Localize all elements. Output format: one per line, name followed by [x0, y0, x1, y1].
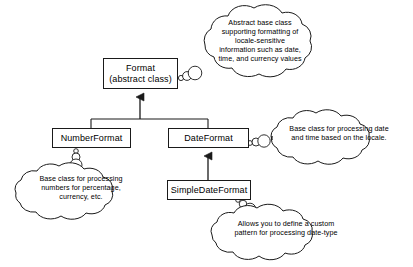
- class-box-numberformat[interactable]: NumberFormat: [52, 128, 131, 148]
- class-diagram-canvas: Format --> DateFormat -->: [0, 0, 413, 267]
- class-name-format: Format: [126, 63, 155, 74]
- cloud-shape-numberformat-note: [15, 163, 113, 220]
- class-name-numberformat: NumberFormat: [61, 133, 123, 144]
- thought-tail-dateformat: [248, 135, 271, 147]
- cloud-shape-format-note: [204, 5, 311, 77]
- class-box-dateformat[interactable]: DateFormat: [168, 128, 249, 148]
- cloud-shape-dateformat-note: [271, 110, 369, 165]
- cloud-shape-simpledateformat-note: [211, 204, 312, 259]
- thought-tail-format: [178, 66, 201, 80]
- class-stereotype-format: (abstract class): [109, 74, 172, 85]
- class-name-simpledateformat: SimpleDateFormat: [171, 185, 248, 196]
- class-box-format[interactable]: Format (abstract class): [103, 58, 178, 89]
- class-name-dateformat: DateFormat: [184, 133, 233, 144]
- generalization-to-format: [91, 97, 208, 128]
- class-box-simpledateformat[interactable]: SimpleDateFormat: [167, 180, 251, 200]
